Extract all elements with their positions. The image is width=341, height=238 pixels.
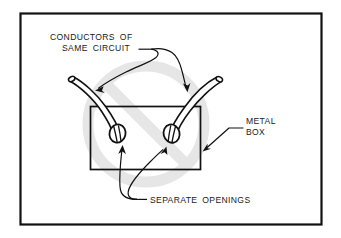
figure-container: CONDUCTORS OF SAME CIRCUIT METAL BOX SEP… [0,0,341,238]
label-metal-box-line1: METAL [246,116,276,126]
label-conductors-line2: SAME CIRCUIT [62,43,130,53]
label-separate-openings: SEPARATE OPENINGS [150,195,250,205]
label-metal-box-line2: BOX [246,127,265,137]
technical-diagram: CONDUCTORS OF SAME CIRCUIT METAL BOX SEP… [0,0,341,238]
label-conductors-line1: CONDUCTORS OF [50,32,133,42]
